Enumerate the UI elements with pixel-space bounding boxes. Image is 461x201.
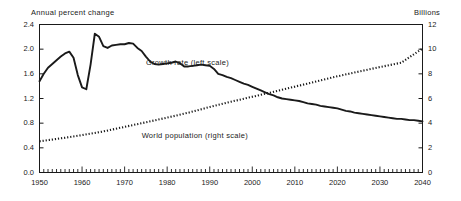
series-annotation-world-population: World population (right scale) bbox=[142, 131, 248, 140]
right-axis-tick-marks bbox=[419, 25, 423, 173]
series-line-growth-rate bbox=[40, 34, 423, 122]
x-axis-tick-marks bbox=[40, 167, 423, 173]
left-axis-tick-marks bbox=[40, 25, 44, 173]
series-line-world-population bbox=[40, 49, 423, 142]
plot-area bbox=[0, 0, 461, 201]
population-growth-chart: Annual percent change Billions 2.42.01.6… bbox=[0, 0, 461, 201]
series-annotation-growth-rate: Growth rate (left scale) bbox=[146, 58, 229, 67]
plot-frame bbox=[40, 25, 423, 173]
